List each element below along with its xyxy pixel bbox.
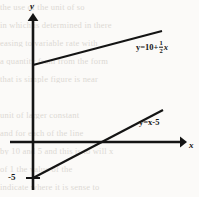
y-axis-label: y <box>30 1 34 11</box>
equation-label-upper: y=10+ 1 2 x <box>136 40 168 55</box>
equation-upper-prefix: y=10+ <box>136 42 158 52</box>
equation-label-lower: y=x-5 <box>139 117 159 127</box>
fraction-denominator: 2 <box>159 48 163 55</box>
x-axis-label: x <box>189 140 194 150</box>
fraction-numerator: 1 <box>159 40 163 47</box>
x-axis-arrowhead <box>180 137 187 148</box>
y-axis-arrowhead <box>28 13 39 21</box>
equation-upper-suffix: x <box>164 42 168 52</box>
fraction-one-half: 1 2 <box>159 40 163 55</box>
coordinate-graph-figure: the use of the unit of so in which is de… <box>0 0 199 197</box>
plot-canvas <box>0 0 199 197</box>
y-axis-tick-label-minus-5: -5 <box>8 172 16 182</box>
